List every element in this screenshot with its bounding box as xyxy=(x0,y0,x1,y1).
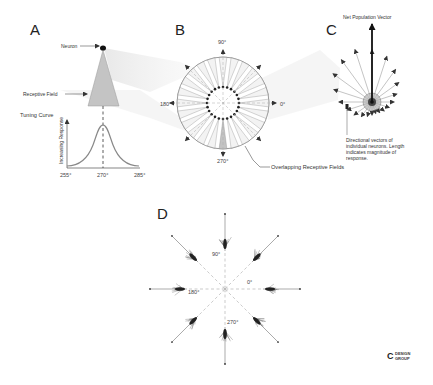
logo-line-2: GROUP xyxy=(395,356,410,361)
panel-c-letter: C xyxy=(326,21,337,38)
neuron-icon xyxy=(100,45,106,50)
population-vector-star xyxy=(149,213,301,365)
callout-line xyxy=(245,146,270,167)
d-angle-270-label: 270° xyxy=(227,319,238,325)
x-tick-255: 255° xyxy=(60,172,71,178)
logo-mark: C xyxy=(387,351,394,361)
panel-a-letter: A xyxy=(30,21,40,38)
neuron-label: Neuron xyxy=(61,43,78,49)
diagram-canvas: A Neuron Receptive Field Tuning Curve In… xyxy=(0,0,433,385)
angle-90-label: 90° xyxy=(218,39,226,45)
panel-d-letter: D xyxy=(157,205,168,222)
angle-180-label: 180° xyxy=(160,101,171,107)
x-tick-270: 270° xyxy=(97,172,108,178)
receptive-field-label: Receptive Field xyxy=(23,91,58,97)
angle-0-label: 0° xyxy=(280,101,285,107)
d-angle-90-label: 90° xyxy=(212,251,220,257)
y-axis-label: Increasing Response xyxy=(58,117,64,164)
tuning-curve-label: Tuning Curve xyxy=(20,112,53,118)
design-group-logo: C DESIGN GROUP xyxy=(387,351,410,361)
x-tick-285: 285° xyxy=(134,172,145,178)
d-angle-180-label: 180° xyxy=(188,289,199,295)
panel-b-letter: B xyxy=(175,21,185,38)
panel-d: D 90° 180° 0° 270° xyxy=(149,205,301,365)
angle-270-label: 270° xyxy=(217,158,228,164)
caption-line-4: response. xyxy=(346,155,368,161)
overlapping-fields-label: Overlapping Receptive Fields xyxy=(271,164,344,170)
population-vector-burst xyxy=(333,50,399,117)
d-angle-0-label: 0° xyxy=(247,279,252,285)
net-vector-label: Net Population Vector xyxy=(343,14,392,20)
receptive-field-wheel xyxy=(170,50,276,156)
